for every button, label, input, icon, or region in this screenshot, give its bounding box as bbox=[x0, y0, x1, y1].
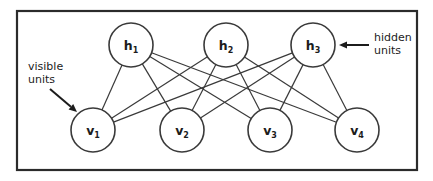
hidden-layer: h1h2h3 bbox=[109, 23, 335, 67]
visible-units-label-line2: units bbox=[28, 73, 55, 86]
hidden-units-label-line2: units bbox=[374, 44, 401, 57]
node-subscript-v4: 4 bbox=[358, 130, 364, 139]
node-h1[interactable]: h1 bbox=[109, 23, 153, 67]
node-subscript-v2: 2 bbox=[183, 130, 189, 139]
node-subscript-h2: 2 bbox=[228, 45, 234, 54]
connection-edge bbox=[280, 65, 303, 111]
connection-edge bbox=[102, 65, 122, 110]
hidden-units-annotation: hidden units bbox=[339, 31, 412, 57]
node-subscript-v1: 1 bbox=[94, 130, 100, 139]
hidden-units-arrow-head bbox=[339, 41, 347, 48]
node-subscript-h1: 1 bbox=[133, 45, 139, 54]
rbm-diagram-canvas: v1v2v3v4 h1h2h3 hidden units visible uni… bbox=[0, 0, 433, 181]
node-h2[interactable]: h2 bbox=[204, 23, 248, 67]
connection-edge bbox=[142, 64, 170, 111]
node-v2[interactable]: v2 bbox=[160, 108, 204, 152]
visible-units-arrow bbox=[50, 89, 71, 107]
node-v4[interactable]: v4 bbox=[335, 108, 379, 152]
visible-units-label-line1: visible bbox=[28, 60, 63, 73]
visible-units-annotation: visible units bbox=[28, 60, 77, 112]
node-v1[interactable]: v1 bbox=[71, 108, 115, 152]
node-subscript-h3: 3 bbox=[315, 45, 321, 54]
node-h3[interactable]: h3 bbox=[291, 23, 335, 67]
connection-edge bbox=[150, 56, 251, 118]
connection-edge bbox=[323, 65, 347, 111]
node-subscript-v3: 3 bbox=[271, 130, 277, 139]
hidden-units-label-line1: hidden bbox=[374, 31, 412, 44]
node-v3[interactable]: v3 bbox=[248, 108, 292, 152]
rbm-diagram-figure: v1v2v3v4 h1h2h3 hidden units visible uni… bbox=[0, 0, 433, 181]
